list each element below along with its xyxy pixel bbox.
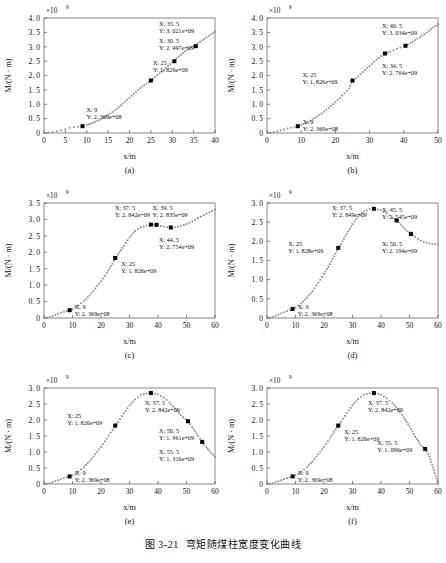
- data-marker: [369, 65, 371, 67]
- data-marker: [132, 401, 134, 403]
- data-marker: [344, 415, 346, 417]
- data-marker: [410, 428, 412, 430]
- data-marker: [94, 288, 96, 290]
- data-marker: [283, 129, 285, 131]
- data-marker: [421, 35, 423, 37]
- y-tick-label: 0: [259, 480, 263, 489]
- data-marker: [363, 394, 365, 396]
- data-marker: [86, 124, 88, 126]
- y-tick-label: 0. 5: [29, 464, 41, 473]
- data-marker: [182, 52, 184, 54]
- data-marker: [60, 312, 62, 314]
- x-tick-label: 60: [434, 321, 442, 330]
- data-marker: [317, 453, 319, 455]
- annotation-x-label: X: 40. 5: [382, 22, 402, 29]
- data-marker: [266, 483, 268, 485]
- annotation-y-label: Y: 2. 754e+09: [159, 243, 194, 250]
- data-marker: [154, 393, 156, 395]
- data-marker: [436, 478, 438, 480]
- data-point-annotation: X: 25Y: 1. 826e+09: [67, 412, 117, 428]
- data-marker: [156, 74, 158, 76]
- data-marker: [43, 483, 45, 485]
- y-tick-label: 2. 5: [252, 218, 264, 227]
- annotation-x-label: X: 34. 5: [382, 62, 402, 69]
- data-marker: [378, 57, 380, 59]
- svg-text:9: 9: [66, 4, 69, 10]
- svg-text:9: 9: [66, 374, 69, 380]
- annotation-y-label: Y: 1. 826e+09: [121, 267, 156, 274]
- data-marker: [77, 126, 79, 128]
- data-marker: [429, 243, 431, 245]
- data-marker: [207, 448, 209, 450]
- panel-label: (a): [125, 165, 135, 175]
- y-tick-label: 0: [259, 314, 263, 323]
- data-marker: [197, 435, 199, 437]
- data-marker: [109, 268, 111, 270]
- data-marker: [335, 253, 337, 255]
- y-tick-label: 1. 0: [252, 100, 264, 109]
- data-marker: [92, 122, 94, 124]
- chart-svg-f: ×109010203040506000. 51. 01. 52. 02. 53.…: [223, 370, 446, 536]
- panel-label: (f): [348, 516, 357, 526]
- data-marker: [94, 453, 96, 455]
- data-marker: [107, 270, 109, 272]
- data-marker: [433, 469, 435, 471]
- data-marker: [286, 477, 288, 479]
- data-marker: [319, 451, 321, 453]
- data-marker: [270, 132, 272, 134]
- data-marker: [312, 460, 314, 462]
- data-marker: [327, 266, 329, 268]
- highlighted-data-point: [149, 79, 153, 83]
- data-point-annotation: X: 25Y: 1. 826e+09: [336, 424, 379, 442]
- data-marker: [98, 283, 100, 285]
- data-marker: [121, 415, 123, 417]
- data-marker: [380, 394, 382, 396]
- data-marker: [321, 276, 323, 278]
- highlighted-data-point: [336, 424, 340, 428]
- plot-area-e: ×109010203040506000. 51. 01. 52. 02. 53.…: [0, 370, 223, 536]
- highlighted-data-point: [155, 223, 159, 227]
- subplot-panel-f: ×109010203040506000. 51. 01. 52. 02. 53.…: [223, 370, 446, 536]
- data-marker: [412, 41, 414, 43]
- data-marker: [433, 27, 435, 29]
- data-point-annotation: X: 9Y: 2. 369e+08: [291, 469, 333, 483]
- data-marker: [146, 83, 148, 85]
- annotation-y-label: Y: 2. 842e+09: [145, 406, 180, 413]
- annotation-x-label: X: 9: [75, 303, 86, 310]
- data-marker: [186, 223, 188, 225]
- data-marker: [56, 131, 58, 133]
- annotation-x-label: X: 9: [298, 469, 309, 476]
- data-marker: [416, 438, 418, 440]
- chart-svg-c: ×109010203040506000. 51. 01. 52. 02. 53.…: [0, 185, 223, 370]
- highlighted-data-point: [113, 424, 117, 428]
- data-marker: [266, 132, 268, 134]
- data-marker: [341, 95, 343, 97]
- annotation-y-label: Y: 2. 369e+08: [86, 113, 121, 120]
- annotation-x-label: X: 39. 5: [153, 204, 173, 211]
- data-marker: [316, 116, 318, 118]
- annotation-x-label: X: 25: [288, 240, 302, 247]
- data-marker: [434, 472, 436, 474]
- data-marker: [73, 126, 75, 128]
- data-marker: [420, 445, 422, 447]
- data-marker: [427, 453, 429, 455]
- annotation-y-label: Y: 2. 764e+09: [382, 69, 417, 76]
- data-marker: [340, 421, 342, 423]
- y-tick-label: 0. 5: [252, 295, 264, 304]
- annotation-y-label: Y: 2. 842e+09: [115, 211, 150, 218]
- data-marker: [354, 402, 356, 404]
- data-marker: [141, 86, 143, 88]
- data-marker: [335, 101, 337, 103]
- y-tick-label: 1. 0: [29, 100, 41, 109]
- data-marker: [280, 479, 282, 481]
- annotation-y-label: Y: 1. 826e+09: [303, 78, 338, 85]
- data-marker: [426, 32, 428, 34]
- data-marker: [346, 233, 348, 235]
- data-marker: [118, 106, 120, 108]
- data-point-annotation: X: 37. 5Y: 2. 842e+09: [145, 391, 180, 413]
- data-marker: [380, 55, 382, 57]
- data-marker: [177, 226, 179, 228]
- annotation-x-label: X: 25: [303, 71, 317, 78]
- data-marker: [431, 464, 433, 466]
- data-marker: [166, 226, 168, 228]
